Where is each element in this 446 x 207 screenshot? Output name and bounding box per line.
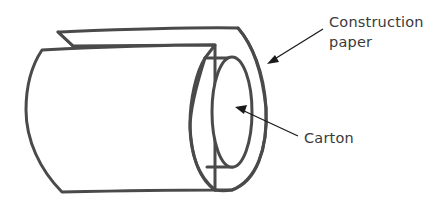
construction-paper-arrow-line bbox=[273, 29, 323, 60]
construction-paper-label-line1: Construction bbox=[329, 12, 424, 32]
carton-label: Carton bbox=[304, 128, 354, 148]
paper-front-sheet bbox=[26, 45, 215, 192]
construction-paper-label: Construction paper bbox=[329, 12, 424, 52]
construction-paper-label-line2: paper bbox=[329, 32, 424, 52]
construction-paper-arrow-head bbox=[267, 55, 279, 64]
